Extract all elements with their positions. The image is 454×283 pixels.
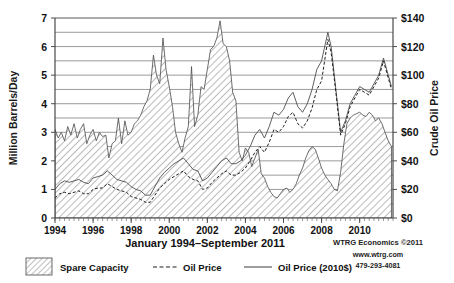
legend-label-spare-capacity: Spare Capacity <box>60 262 129 273</box>
x-tick-label: 1996 <box>82 225 105 236</box>
x-tick-label: 2004 <box>234 225 257 236</box>
y2-tick-label: $40 <box>401 155 419 167</box>
y2-tick-label: $60 <box>401 126 419 138</box>
y2-tick-label: $100 <box>401 69 425 81</box>
x-axis-caption: January 1994–September 2011 <box>125 237 285 249</box>
y2-tick-label: $0 <box>401 212 413 224</box>
x-tick-label: 2002 <box>196 225 219 236</box>
y-tick-label: 6 <box>41 41 47 53</box>
y-axis-title: Million Barrels/Day <box>7 71 19 166</box>
oil-spare-capacity-chart: 01234567 $0$20$40$60$80$100$120$140 1994… <box>0 0 454 283</box>
credit-website: www.wtrg.com <box>352 250 403 259</box>
x-tick-label: 2006 <box>272 225 295 236</box>
legend-swatch-spare-capacity <box>26 258 52 275</box>
y-tick-label: 7 <box>41 12 47 24</box>
credit-organization: WTRG Economics ©2011 <box>333 238 424 247</box>
y2-axis-title: Crude Oil Price <box>428 80 440 156</box>
x-tick-label: 1998 <box>120 225 143 236</box>
legend-label-oil-price: Oil Price <box>183 262 222 273</box>
x-tick-label: 2000 <box>158 225 181 236</box>
x-tick-label: 1994 <box>44 225 67 236</box>
y-tick-label: 4 <box>41 98 47 110</box>
y-tick-label: 3 <box>41 126 47 138</box>
legend-label-oil-price-real: Oil Price (2010$) <box>278 262 352 273</box>
x-tick-label: 2010 <box>349 225 372 236</box>
x-tick-label: 2008 <box>310 225 333 236</box>
chart-canvas: 01234567 $0$20$40$60$80$100$120$140 1994… <box>0 0 454 283</box>
y-tick-label: 5 <box>41 69 47 81</box>
y2-tick-label: $120 <box>401 41 425 53</box>
y-tick-label: 0 <box>41 212 47 224</box>
y-tick-label: 1 <box>41 183 47 195</box>
y2-tick-label: $140 <box>401 12 425 24</box>
y2-tick-label: $80 <box>401 98 419 110</box>
y-tick-label: 2 <box>41 155 47 167</box>
y2-tick-label: $20 <box>401 183 419 195</box>
credit-phone: 479-293-4081 <box>356 261 401 270</box>
